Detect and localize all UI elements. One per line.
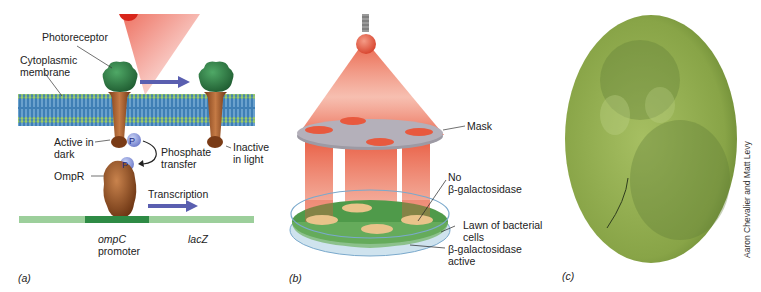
label-inactive-1: Inactive xyxy=(233,141,269,153)
no-galactosidase-spot xyxy=(401,215,433,225)
label-bgal-active-1: β-galactosidase xyxy=(448,243,522,255)
panel-label-b: (b) xyxy=(289,272,302,284)
label-ompr: OmpR xyxy=(54,170,84,182)
no-galactosidase-spot xyxy=(361,224,393,234)
label-mask: Mask xyxy=(467,120,492,132)
label-active-2: dark xyxy=(54,148,74,160)
label-lawn-1: Lawn of bacterial xyxy=(463,219,542,231)
label-lacz: lacZ xyxy=(188,233,208,245)
panel-b xyxy=(290,14,465,256)
phosphate-transfer-arrow xyxy=(143,141,156,164)
label-active-1: Active in xyxy=(54,136,94,148)
panel-a xyxy=(18,14,255,223)
mask-hole xyxy=(366,138,394,146)
ompc-promoter-region xyxy=(85,216,149,223)
no-galactosidase-spot xyxy=(342,204,372,213)
no-galactosidase-spot xyxy=(306,215,338,225)
phosphate-symbol: P xyxy=(122,159,128,171)
ompr-protein xyxy=(103,161,136,218)
label-transcription: Transcription xyxy=(148,188,208,200)
label-no-1: No xyxy=(448,171,461,183)
panel-c xyxy=(565,15,737,263)
label-membrane-2: membrane xyxy=(20,66,70,78)
label-lawn-2: cells xyxy=(463,231,484,243)
transcription-arrow xyxy=(148,204,188,208)
label-phosphate-2: transfer xyxy=(161,158,197,170)
label-inactive-2: in light xyxy=(233,153,263,165)
phosphate-symbol: P xyxy=(129,135,135,147)
panel-label-c: (c) xyxy=(562,270,574,282)
mask-hole xyxy=(405,128,433,136)
panel-label-a: (a) xyxy=(18,272,31,284)
state-arrow xyxy=(140,80,180,84)
label-promoter: promoter xyxy=(98,245,140,257)
light-bulb xyxy=(356,34,376,54)
label-no-2: β-galactosidase xyxy=(448,183,522,195)
photo-credit: Aaron Chevalier and Matt Levy xyxy=(742,141,752,258)
label-membrane-1: Cytoplasmic xyxy=(20,54,77,66)
label-photoreceptor: Photoreceptor xyxy=(42,31,108,43)
label-ompc: ompC xyxy=(98,233,126,245)
mask-hole xyxy=(305,126,333,134)
label-bgal-active-2: active xyxy=(448,255,475,267)
mask-hole xyxy=(340,117,366,125)
label-phosphate-1: Phosphate xyxy=(161,146,211,158)
